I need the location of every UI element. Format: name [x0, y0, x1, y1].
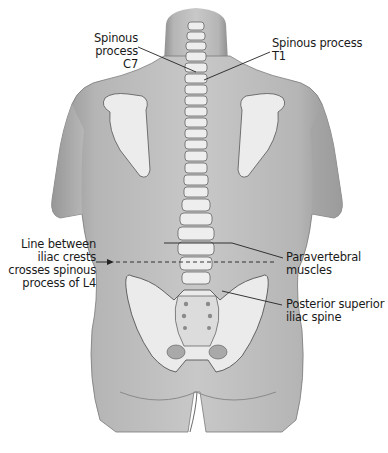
label-paravertebral-muscles: Paravertebral muscles — [286, 251, 361, 277]
label-psis-line2: iliac spine — [286, 311, 384, 324]
label-paravertebral-line2: muscles — [286, 264, 361, 277]
label-c7-line1: Spinous process — [58, 32, 138, 58]
label-iliac-crest-line: Line between iliac crests crosses spinou… — [4, 238, 96, 290]
label-iliac-line4: process of L4 — [4, 277, 96, 290]
label-spinous-process-t1: Spinous process T1 — [272, 37, 362, 63]
label-posterior-superior-iliac-spine: Posterior superior iliac spine — [286, 298, 384, 324]
label-c7-line2: C7 — [58, 58, 138, 71]
label-spinous-process-c7: Spinous process C7 — [58, 32, 138, 71]
label-t1-line2: T1 — [272, 50, 362, 63]
